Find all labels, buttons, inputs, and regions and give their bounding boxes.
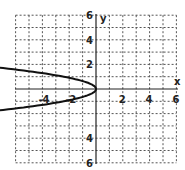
svg-text:4: 4 (86, 35, 93, 46)
svg-text:4: 4 (146, 94, 153, 105)
svg-text:4: 4 (86, 133, 93, 144)
svg-text:2: 2 (119, 94, 126, 105)
svg-text:6: 6 (86, 158, 93, 169)
svg-text:2: 2 (86, 59, 93, 70)
svg-text:6: 6 (86, 10, 93, 21)
svg-text:6: 6 (172, 94, 179, 105)
x-axis-label: x (174, 76, 181, 87)
graph: x y -4-224664246 (0, 0, 185, 170)
y-axis-label: y (100, 13, 107, 24)
